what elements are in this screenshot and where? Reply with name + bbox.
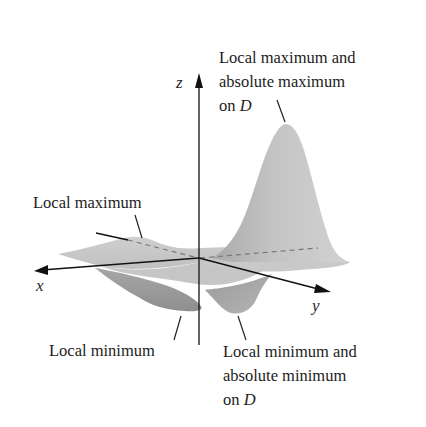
abs-min-line1: Local minimum and [223,342,357,361]
z-axis-arrow [195,73,203,88]
abs-min-line2: absolute minimum [223,366,357,385]
abs-max-line3: on D [219,96,356,115]
abs-max-line1: Local maximum and [219,48,356,67]
x-axis-back [96,233,128,240]
surface-plot [0,0,426,427]
x-axis-label: x [36,276,44,296]
leader-local-max [135,215,142,238]
surface-peak [212,124,350,264]
abs-max-line3-prefix: on [219,96,240,115]
abs-min-line3: on D [223,390,357,409]
z-axis-label: z [176,73,183,93]
abs-min-line3-prefix: on [223,390,244,409]
abs-min-domain-var: D [244,390,256,409]
y-axis-label: y [312,296,320,316]
x-axis-arrow [34,265,48,275]
local-min-line1: Local minimum [49,341,155,360]
abs-max-domain-var: D [240,96,252,115]
surface-figure: z x y Local maximum and absolute maximum… [0,0,426,427]
abs-max-line2: absolute maximum [219,72,356,91]
annotation-local-min: Local minimum [49,341,155,360]
annotation-abs-max: Local maximum and absolute maximum on D [219,48,356,115]
y-axis-arrow [314,284,331,293]
annotation-abs-min: Local minimum and absolute minimum on D [223,342,357,409]
leader-local-min [174,316,181,340]
local-max-line1: Local maximum [33,193,142,212]
annotation-local-max: Local maximum [33,193,142,212]
leader-abs-min [238,316,246,340]
